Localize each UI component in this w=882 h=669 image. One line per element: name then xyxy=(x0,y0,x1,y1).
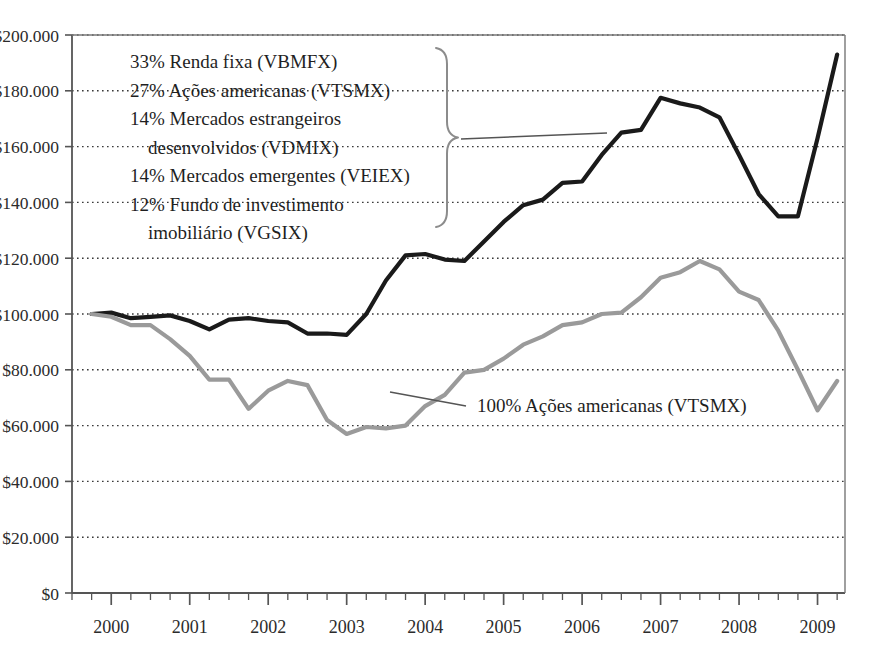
legend-leader-line xyxy=(461,133,607,139)
x-tick-label: 2009 xyxy=(800,617,836,637)
y-tick-label: $80.000 xyxy=(2,360,59,380)
callout-label: 100% Ações americanas (VTSMX) xyxy=(477,395,747,417)
x-tick-label: 2003 xyxy=(329,617,365,637)
x-tick-label: 2004 xyxy=(407,617,443,637)
legend-line: desenvolvidos (VDMIX) xyxy=(148,137,339,159)
x-axis-tick-labels: 2000200120022003200420052006200720082009 xyxy=(93,617,835,637)
y-tick-label: $100.000 xyxy=(0,305,59,325)
line-chart: $0$20.000$40.000$60.000$80.000$100.000$1… xyxy=(0,0,882,669)
legend-line: 14% Mercados estrangeiros xyxy=(130,108,341,129)
y-tick-label: $160.000 xyxy=(0,137,59,157)
legend-line: 33% Renda fixa (VBMFX) xyxy=(130,51,337,73)
annotation-leaders xyxy=(390,133,607,406)
y-tick-label: $0 xyxy=(42,584,60,604)
y-axis-tick-labels: $0$20.000$40.000$60.000$80.000$100.000$1… xyxy=(0,26,59,604)
legend-line: 14% Mercados emergentes (VEIEX) xyxy=(130,165,410,187)
legend-brace xyxy=(436,48,458,227)
y-tick-label: $40.000 xyxy=(2,472,59,492)
us-stocks-callout: 100% Ações americanas (VTSMX) xyxy=(477,395,747,417)
legend-line: 12% Fundo de investimento xyxy=(130,194,344,215)
x-tick-label: 2000 xyxy=(93,617,129,637)
legend-line: 27% Ações americanas (VTSMX) xyxy=(130,80,390,102)
x-tick-label: 2007 xyxy=(643,617,679,637)
chart-figure: $0$20.000$40.000$60.000$80.000$100.000$1… xyxy=(0,0,882,669)
x-tick-label: 2001 xyxy=(172,617,208,637)
x-tick-label: 2002 xyxy=(250,617,286,637)
x-tick-label: 2005 xyxy=(486,617,522,637)
y-tick-label: $140.000 xyxy=(0,193,59,213)
portfolio-legend: 33% Renda fixa (VBMFX)27% Ações american… xyxy=(130,48,458,244)
y-tick-label: $60.000 xyxy=(2,416,59,436)
x-tick-label: 2008 xyxy=(721,617,757,637)
y-tick-label: $180.000 xyxy=(0,81,59,101)
y-tick-label: $20.000 xyxy=(2,528,59,548)
x-tick-label: 2006 xyxy=(564,617,600,637)
y-tick-label: $200.000 xyxy=(0,26,59,46)
y-tick-label: $120.000 xyxy=(0,249,59,269)
legend-line: imobiliário (VGSIX) xyxy=(148,222,308,244)
